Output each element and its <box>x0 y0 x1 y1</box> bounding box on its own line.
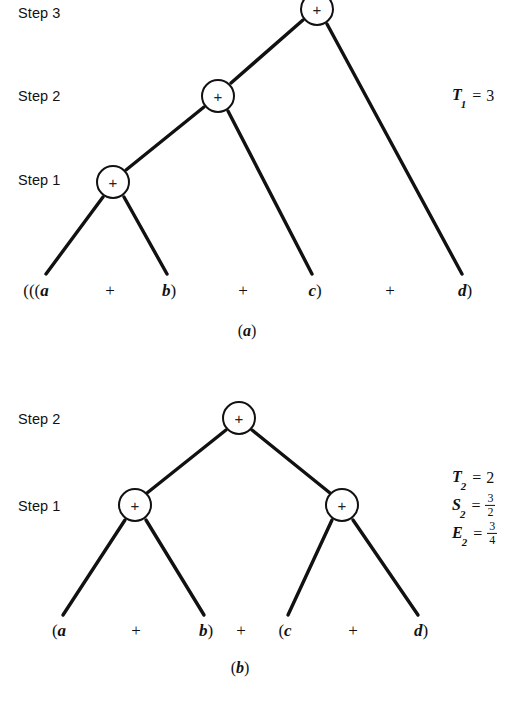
panel-a-leaf-c: c) <box>308 281 321 301</box>
panel-b-metric-S2: S2 = 3 2 <box>452 493 495 519</box>
edge-a-step2-to-leaf-c <box>228 111 312 274</box>
leaf-variable: a <box>40 281 49 300</box>
metric-equals: = <box>472 469 481 487</box>
panel-b-step-label-2: Step 2 <box>18 411 61 427</box>
panel-b-metric-E2: E2 = 3 4 <box>452 521 497 547</box>
fraction-numerator: 3 <box>485 492 495 505</box>
panel-a-caption: (a) <box>238 322 257 340</box>
leaf-variable: b <box>162 281 171 300</box>
leaf-close-paren: ) <box>207 621 213 640</box>
panel-a-operator-2: + <box>238 281 248 301</box>
panel-a-step-label-3: Step 3 <box>18 5 61 21</box>
caption-close-paren: ) <box>244 659 249 676</box>
plus-icon: + <box>214 88 223 103</box>
leaf-variable: a <box>58 621 67 640</box>
metric-equals: = <box>472 87 481 105</box>
panel-b-caption: (b) <box>231 659 250 677</box>
panel-a-step-label-1: Step 1 <box>18 172 61 188</box>
caption-close-paren: ) <box>251 322 256 339</box>
plus-icon: + <box>313 1 322 16</box>
panel-b-operator-3: + <box>348 621 358 641</box>
figure-canvas: Step 3 Step 2 Step 1 + + + (((a + b) + c… <box>0 0 522 703</box>
panel-b-edges <box>63 430 418 615</box>
metric-subscript: 2 <box>460 508 466 520</box>
fraction-numerator: 3 <box>487 520 497 533</box>
leaf-variable: d <box>458 281 467 300</box>
plus-icon: + <box>109 174 118 189</box>
panel-a-step-label-2: Step 2 <box>18 88 61 104</box>
plus-icon: + <box>131 497 140 512</box>
panel-a-metric-T1: T1 = 3 <box>452 86 494 106</box>
edge-a-step3-to-leaf-d <box>327 24 462 274</box>
metric-fraction: 3 4 <box>487 520 497 546</box>
panel-a-leaf-d: d) <box>458 281 472 301</box>
leaf-variable: d <box>414 621 423 640</box>
panel-a-leaf-a: (((a <box>23 281 48 301</box>
edge-b-right-to-leaf-d <box>353 520 418 615</box>
edge-b-left-to-leaf-a <box>63 520 125 615</box>
edge-b-left-to-leaf-b <box>146 520 204 615</box>
panel-b-node-step2-root[interactable]: + <box>222 401 256 435</box>
leaf-close-paren: ) <box>170 281 176 300</box>
metric-subscript: 2 <box>461 480 467 492</box>
panel-a-edges <box>46 20 462 274</box>
metric-subscript: 1 <box>461 98 467 110</box>
leaf-variable: b <box>199 621 208 640</box>
leaf-close-paren: ) <box>422 621 428 640</box>
metric-fraction: 3 2 <box>485 492 495 518</box>
panel-b-leaf-d: d) <box>414 621 428 641</box>
panel-b-leaf-a: (a <box>52 621 66 641</box>
metric-value: 3 <box>486 87 494 105</box>
panel-a-node-step3-root[interactable]: + <box>300 0 334 26</box>
panel-a-node-step1[interactable]: + <box>96 165 130 199</box>
panel-a-node-step2[interactable]: + <box>201 79 235 113</box>
leaf-close-paren: ) <box>316 281 322 300</box>
metric-subscript: 2 <box>462 536 468 548</box>
panel-b-operator-2: + <box>236 621 246 641</box>
metric-value: 2 <box>486 469 494 487</box>
panel-b-operator-1: + <box>131 621 141 641</box>
edge-b-root-to-left <box>147 430 226 493</box>
panel-b-leaf-b: b) <box>199 621 213 641</box>
fraction-denominator: 2 <box>485 505 495 519</box>
leaf-variable: c <box>308 281 316 300</box>
panel-b-node-step1-right[interactable]: + <box>325 488 359 522</box>
plus-icon: + <box>338 497 347 512</box>
panel-b-step-label-1: Step 1 <box>18 498 61 514</box>
edge-a-step1-to-leaf-b <box>124 197 167 274</box>
edge-b-right-to-leaf-c <box>288 520 332 615</box>
panel-a-operator-3: + <box>385 281 395 301</box>
panel-a-operator-1: + <box>105 281 115 301</box>
edge-a-step3-to-step2 <box>231 20 303 83</box>
plus-icon: + <box>235 410 244 425</box>
metric-equals: = <box>473 525 482 543</box>
panel-a-leaf-b: b) <box>162 281 176 301</box>
edge-a-step2-to-step1 <box>126 107 204 170</box>
leaf-open-paren: ((( <box>23 281 40 300</box>
panel-b-metric-T2: T2 = 2 <box>452 468 494 488</box>
panel-b-leaf-c: (c <box>278 621 291 641</box>
fraction-denominator: 4 <box>487 533 497 547</box>
panel-b-node-step1-left[interactable]: + <box>118 488 152 522</box>
edge-b-root-to-right <box>252 430 330 493</box>
edge-a-step1-to-leaf-a <box>46 197 103 274</box>
leaf-variable: c <box>284 621 292 640</box>
metric-equals: = <box>471 497 480 515</box>
tree-edges <box>0 0 522 703</box>
leaf-close-paren: ) <box>466 281 472 300</box>
